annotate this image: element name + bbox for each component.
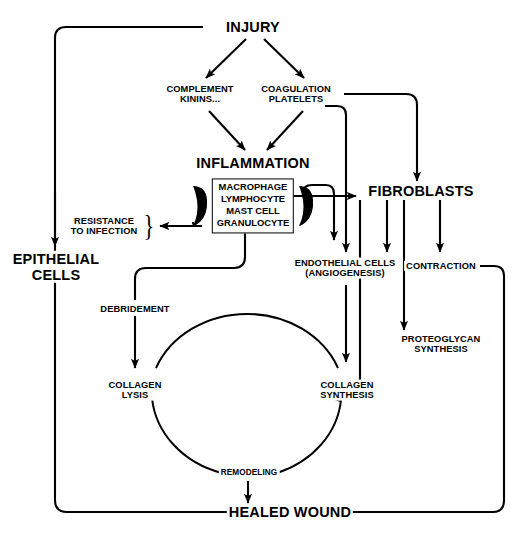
node-debridement: DEBRIDEMENT	[98, 304, 171, 314]
circle-arc-bottom-right	[277, 400, 341, 473]
node-inflammation: INFLAMMATION	[194, 155, 311, 171]
node-contraction: CONTRACTION	[404, 261, 478, 271]
cellbox-line3: MAST CELL	[217, 206, 289, 218]
node-endothelial-cells: ENDOTHELIAL CELLS (ANGIOGENESIS)	[293, 258, 398, 279]
cell-types-box: MACROPHAGE LYMPHOCYTE MAST CELL GRANULOC…	[212, 178, 294, 233]
node-collagen-lysis: COLLAGEN LYSIS	[107, 380, 164, 401]
cellbox-line4: GRANULOCYTE	[217, 218, 289, 230]
collagen-synthesis-line2: SYNTHESIS	[320, 390, 374, 400]
collagen-lysis-line2: LYSIS	[109, 390, 162, 400]
node-coagulation-platelets: COAGULATION PLATELETS	[259, 84, 333, 105]
node-collagen-synthesis: COLLAGEN SYNTHESIS	[318, 380, 376, 401]
edge-platelets-endothelial	[325, 106, 346, 252]
wound-healing-flowchart: INJURY COMPLEMENT KININS... COAGULATION …	[0, 0, 520, 555]
node-fibroblasts: FIBROBLASTS	[366, 183, 475, 199]
wedge-left-icon	[193, 186, 207, 226]
collagen-lysis-line1: COLLAGEN	[109, 380, 162, 390]
complement-line2: KININS...	[166, 94, 233, 104]
wedge-right-icon	[299, 186, 313, 226]
coagulation-line2: PLATELETS	[261, 94, 331, 104]
endothelial-line1: ENDOTHELIAL CELLS	[295, 258, 396, 268]
resistance-line1: RESISTANCE	[71, 216, 138, 226]
edge-injury-coagulation	[264, 39, 304, 78]
cellbox-line2: LYMPHOCYTE	[217, 193, 289, 205]
collagen-synthesis-line1: COLLAGEN	[320, 380, 374, 390]
node-remodeling: REMODELING	[219, 468, 280, 477]
coagulation-line1: COAGULATION	[261, 84, 331, 94]
epithelial-line2: CELLS	[13, 267, 100, 283]
edge-complement-inflammation	[209, 111, 245, 150]
endothelial-line2: (ANGIOGENESIS)	[295, 268, 396, 278]
resistance-brace: }	[144, 210, 155, 240]
epithelial-line1: EPITHELIAL	[13, 251, 100, 267]
node-resistance-to-infection: RESISTANCE TO INFECTION	[69, 216, 140, 237]
edge-injury-complement	[206, 39, 246, 78]
complement-line1: COMPLEMENT	[166, 84, 233, 94]
resistance-line2: TO INFECTION	[71, 226, 138, 236]
cellbox-line1: MACROPHAGE	[217, 181, 289, 193]
proteoglycan-line2: SYNTHESIS	[402, 344, 481, 354]
edge-coagulation-fibroblasts	[344, 94, 417, 181]
edge-coagulation-inflammation	[267, 111, 303, 150]
node-epithelial-cells: EPITHELIAL CELLS	[11, 251, 102, 283]
node-injury: INJURY	[224, 19, 282, 35]
circle-arc-bottom-left	[152, 398, 222, 473]
node-complement-kinins: COMPLEMENT KININS...	[164, 84, 235, 105]
circle-arc-top	[156, 314, 338, 368]
node-healed-wound: HEALED WOUND	[227, 504, 353, 520]
node-proteoglycan-synthesis: PROTEOGLYCAN SYNTHESIS	[400, 334, 483, 355]
proteoglycan-line1: PROTEOGLYCAN	[402, 334, 481, 344]
